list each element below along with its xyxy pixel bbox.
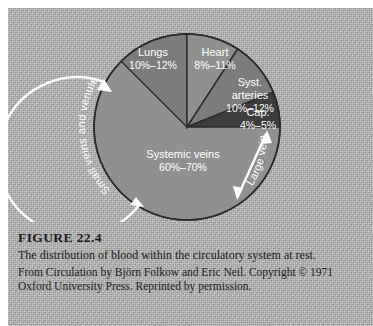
pie-chart-svg: Lungs 10%–12% Heart 8%–11% Syst. arterie… [0, 0, 365, 222]
figure-credit: From Circulation by Björn Folkow and Eri… [18, 265, 350, 294]
figure-container: Lungs 10%–12% Heart 8%–11% Syst. arterie… [0, 0, 373, 326]
figure-caption: FIGURE 22.4 The distribution of blood wi… [18, 230, 358, 294]
figure-description: The distribution of blood within the cir… [18, 248, 333, 263]
pie-label-systemic-veins-name: Systemic veins [146, 148, 220, 160]
pie-label-lungs-value: 10%–12% [129, 59, 177, 71]
pie-label-systemic-arteries-name-2: arteries [232, 89, 269, 101]
small-veins-label: Small veins and venules [0, 0, 112, 197]
pie-chart-area: Lungs 10%–12% Heart 8%–11% Syst. arterie… [0, 0, 365, 222]
pie-label-capillaries-name: Cap. [246, 106, 269, 118]
pie-label-heart-value: 8%–11% [194, 59, 235, 71]
figure-number-label: FIGURE 22.4 [18, 230, 358, 246]
pie-label-systemic-arteries-name-1: Syst. [238, 76, 262, 88]
pie-label-heart-name: Heart [202, 46, 229, 58]
pie-label-systemic-veins-value: 60%–70% [159, 161, 207, 173]
pie-label-lungs-name: Lungs [138, 46, 168, 58]
pie-label-capillaries-value: 4%–5% [240, 119, 276, 131]
